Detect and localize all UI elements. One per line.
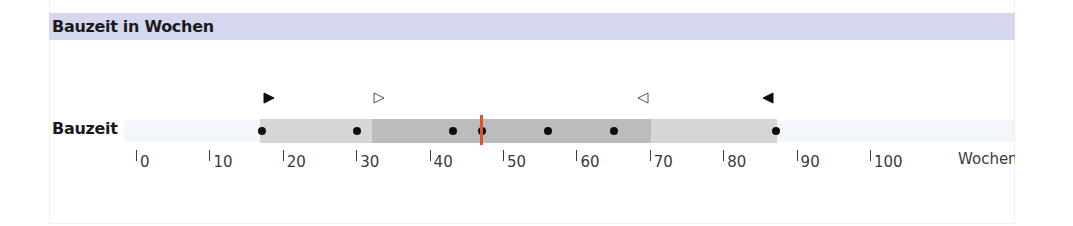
open-left-triangle-icon (637, 92, 649, 104)
axis-tick-label: 100 (870, 150, 903, 171)
data-point (544, 127, 552, 135)
open-right-triangle-icon (373, 92, 385, 104)
axis-tick-label: 40 (430, 150, 453, 171)
axis-tick-label: 90 (797, 150, 820, 171)
axis-tick-label: 60 (576, 150, 599, 171)
chart-area: Bauzeit 0102030405060708090100 Wochen (0, 0, 1015, 226)
row-label: Bauzeit (52, 119, 118, 138)
inner-range-bar (372, 119, 651, 143)
filled-right-triangle-icon (263, 92, 275, 104)
axis-tick-label: 70 (650, 150, 673, 171)
axis-unit-label: Wochen (958, 150, 1015, 168)
axis-tick-label: 80 (723, 150, 746, 171)
axis-tick-label: 50 (503, 150, 526, 171)
axis-tick-label: 30 (356, 150, 379, 171)
axis-tick-label: 10 (209, 150, 232, 171)
filled-left-triangle-icon (762, 92, 774, 104)
axis-tick-label: 20 (283, 150, 306, 171)
data-point (772, 127, 780, 135)
axis-tick-label: 0 (136, 150, 150, 171)
data-point (449, 127, 457, 135)
median-line (480, 115, 483, 145)
data-point (258, 127, 266, 135)
